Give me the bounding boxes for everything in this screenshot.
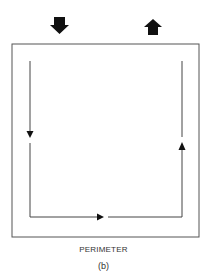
- diagram-label: (b): [0, 261, 207, 271]
- arrowhead-down-icon: [27, 131, 34, 138]
- perimeter-box: [12, 44, 199, 237]
- diagram-title: PERIMETER: [0, 245, 207, 254]
- arrowhead-up-icon: [179, 142, 186, 150]
- down-arrow-icon: [50, 17, 69, 34]
- perimeter-diagram: [0, 0, 207, 274]
- arrowhead-right-icon: [97, 214, 104, 221]
- up-arrow-icon: [144, 19, 162, 35]
